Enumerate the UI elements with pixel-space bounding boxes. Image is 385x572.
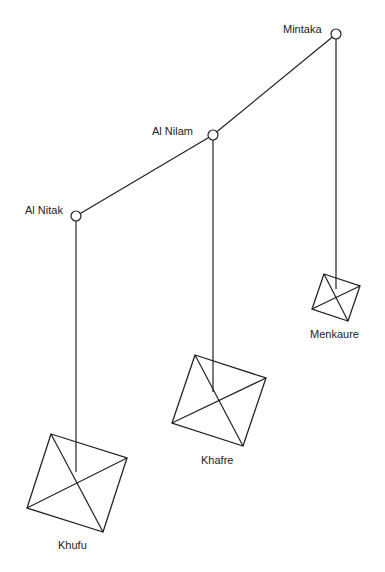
pyramid-label-menkaure: Menkaure <box>310 329 359 340</box>
star-circle-icon <box>71 211 81 221</box>
belt-line-segment <box>217 37 332 132</box>
orion-pyramids-diagram: Mintaka Al Nilam Al Nitak Khufu Khafre M… <box>0 0 385 572</box>
star-label-al-nilam: Al Nilam <box>152 126 193 137</box>
pyramid-label-khufu: Khufu <box>58 540 87 551</box>
star-label-mintaka: Mintaka <box>283 24 322 35</box>
pyramid-diagonal <box>27 458 127 508</box>
star-circle-icon <box>208 130 218 140</box>
star-circle-icon <box>331 29 341 39</box>
pyramid-label-khafre: Khafre <box>201 455 233 466</box>
diagram-drawing <box>0 0 385 572</box>
star-label-al-nitak: Al Nitak <box>25 205 63 216</box>
pyramid-diagonal <box>172 378 266 423</box>
belt-line-segment <box>80 138 208 214</box>
